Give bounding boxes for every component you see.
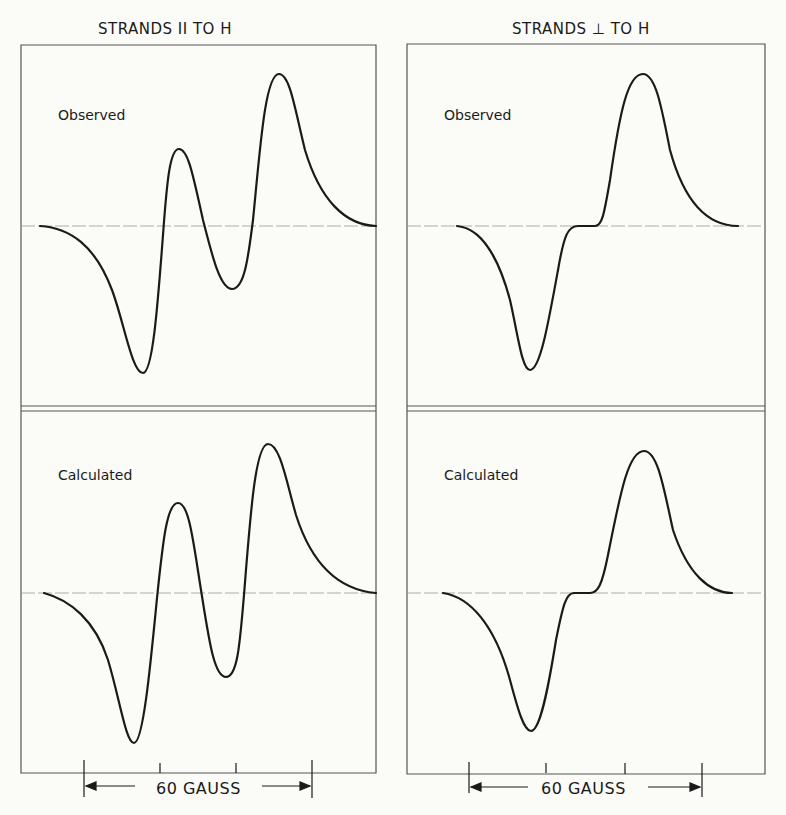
figure-canvas xyxy=(0,0,786,815)
left-frame xyxy=(21,45,376,773)
left-calculated-curve xyxy=(44,444,376,743)
left-arrowhead-icon xyxy=(471,783,481,791)
right-arrowhead-icon xyxy=(300,782,310,790)
baselines xyxy=(21,226,765,593)
right-observed-curve xyxy=(457,74,738,370)
right-arrowhead-icon xyxy=(690,783,700,791)
left-arrowhead-icon xyxy=(86,782,96,790)
left-observed-curve xyxy=(40,74,376,373)
right-calculated-curve xyxy=(443,451,732,731)
left-scale-label: 60 GAUSS xyxy=(152,779,245,798)
right-frame xyxy=(407,44,765,774)
right-scale-label: 60 GAUSS xyxy=(537,779,630,798)
